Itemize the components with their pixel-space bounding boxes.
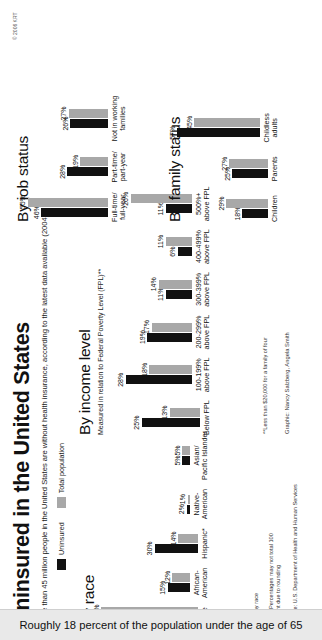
bar-value-label: 30%	[146, 541, 153, 555]
bar-uninsured: 25%	[232, 169, 268, 178]
bar-uninsured: 11%	[166, 290, 192, 299]
bar-value-label: 5%	[174, 455, 181, 465]
panel-subtitle-by-income-level: Measured in relation to Federal Poverty …	[97, 269, 106, 435]
bar-value-label: 17%	[143, 320, 150, 334]
bar-value-label: 45%	[186, 116, 193, 130]
category-label: Children	[271, 195, 280, 222]
bar-total-population: 55%	[28, 198, 108, 207]
infographic-frame: Uninsured in the United States More than…	[0, 0, 322, 640]
panel-by-income-level: By income level Measured in relation to …	[76, 269, 106, 435]
bar-value-label: 19%	[72, 155, 79, 169]
bar-pair: 2%1%	[187, 495, 190, 514]
footer-caption-bar: Roughly 18 percent of the population und…	[0, 609, 322, 640]
bar-value-label: 6%	[169, 247, 176, 257]
bar-pair: 28%19%	[67, 157, 108, 176]
bar-pair: 25%27%	[229, 159, 268, 178]
bar-value-label: 55%	[19, 195, 26, 209]
bar-value-label: 11%	[157, 202, 164, 216]
bar-group: 25%27%Parents	[229, 156, 280, 181]
bar-pair: 19%17%	[147, 323, 192, 342]
bar-pair: 28%18%	[126, 365, 192, 384]
bar-value-label: 57%	[169, 126, 176, 140]
bar-group: 15%12%African- American	[168, 568, 210, 598]
bar-group: 11%14%300-399% above FPL	[159, 272, 212, 307]
category-label: 300-399% above FPL	[195, 272, 212, 307]
bar-value-label: 29%	[218, 197, 225, 211]
bar-value-label: 1%	[179, 494, 186, 504]
bar-group: 30%14%Hispanic*	[155, 528, 210, 558]
copyright-notice: © 2006 KRT	[12, 13, 18, 41]
bar-pair: 5%5%	[182, 446, 189, 465]
bar-total-population: 12%	[172, 573, 189, 582]
bar-value-label: 5%	[174, 445, 181, 455]
bar-value-label: 28%	[117, 373, 124, 387]
legend-label-total-population: Total population	[57, 443, 66, 493]
chart-by-race: 48%67%White15%12%African- American30%14%…	[100, 431, 210, 626]
bar-group: 28%18%100-199% above FPL	[126, 357, 212, 392]
bar-total-population: 29%	[226, 199, 268, 208]
bar-uninsured: 15%	[168, 583, 190, 592]
bar-pair: 30%14%	[155, 534, 199, 553]
category-label: Native- American	[193, 489, 210, 519]
page-subtitle: More than 45 million people in the Unite…	[40, 213, 49, 625]
bar-uninsured: 30%	[155, 544, 199, 553]
legend-swatch-uninsured	[57, 559, 66, 570]
bar-group: 28%19%Part-time/ part-year	[67, 151, 128, 182]
bar-uninsured: 2%	[187, 505, 190, 514]
bar-uninsured: 26%	[70, 119, 108, 128]
bar-pair: 18%29%	[226, 199, 268, 218]
bar-group: 18%29%Children	[226, 195, 280, 222]
bar-value-label: 11%	[157, 288, 164, 302]
bar-value-label: 11%	[157, 235, 164, 249]
legend-item-uninsured: Uninsured	[57, 522, 66, 570]
bar-value-label: 14%	[150, 277, 157, 291]
page-title: Uninsured in the United States	[10, 322, 35, 626]
bar-value-label: 2%	[178, 504, 185, 514]
legend-item-total-population: Total population	[57, 443, 66, 508]
bar-pair: 11%14%	[159, 280, 192, 299]
category-label: African- American	[193, 568, 210, 598]
infographic-canvas: Uninsured in the United States More than…	[0, 0, 322, 640]
bar-value-label: 18%	[141, 363, 148, 377]
bar-total-population: 11%	[166, 237, 192, 246]
bar-pair: 57%45%	[177, 118, 260, 137]
bar-value-label: 27%	[221, 157, 228, 171]
bar-uninsured: 46%	[41, 208, 108, 217]
race-source: Source: U.S. Department of Health and Hu…	[292, 374, 299, 624]
bar-group: 46%55%Full-time/ full-year	[28, 192, 128, 222]
graphic-credit: Graphic: Nancy Salzberg, Angela Smith	[284, 332, 290, 434]
bar-total-population: 17%	[152, 323, 192, 332]
chart-by-family-status: 18%29%Children25%27%Parents57%45%Childle…	[188, 113, 280, 222]
bar-value-label: 28%	[59, 165, 66, 179]
category-label: Below FPL	[203, 400, 212, 435]
legend-swatch-total-population	[57, 497, 66, 508]
bar-group: 57%45%Childless adults	[177, 113, 280, 142]
bar-total-population: 5%	[182, 446, 189, 455]
category-label: Hispanic*	[201, 528, 210, 558]
bar-total-population: 14%	[159, 280, 192, 289]
bar-uninsured: 5%	[182, 456, 189, 465]
panel-title-by-income-level: By income level	[76, 269, 94, 435]
category-label: 200-299% above FPL	[195, 315, 212, 350]
bar-value-label: 27%	[60, 107, 67, 121]
bar-total-population: 45%	[194, 118, 259, 127]
legend-label-uninsured: Uninsured	[57, 522, 66, 555]
bar-pair: 25%13%	[142, 408, 201, 427]
bar-uninsured: 28%	[126, 375, 192, 384]
bar-group: 19%17%200-299% above FPL	[147, 315, 212, 350]
bar-total-population: 1%	[188, 495, 190, 504]
bar-group: 25%13%Below FPL	[142, 400, 212, 435]
bar-pair: 15%12%	[168, 573, 190, 592]
bar-group: 26%27%Not in working families	[69, 96, 128, 142]
category-label: 100-199% above FPL	[195, 357, 212, 392]
bar-uninsured: 19%	[147, 333, 192, 342]
bar-total-population: 19%	[80, 157, 108, 166]
chart-legend: Uninsured Total population	[57, 443, 66, 570]
category-label: Childless adults	[263, 113, 280, 142]
category-label: Full-time/ full-year	[111, 192, 128, 222]
bar-value-label: 46%	[33, 205, 40, 219]
bar-value-label: 25%	[133, 416, 140, 430]
bar-pair: 6%11%	[166, 237, 192, 256]
bar-total-population: 27%	[229, 159, 268, 168]
bar-total-population: 13%	[170, 408, 201, 417]
